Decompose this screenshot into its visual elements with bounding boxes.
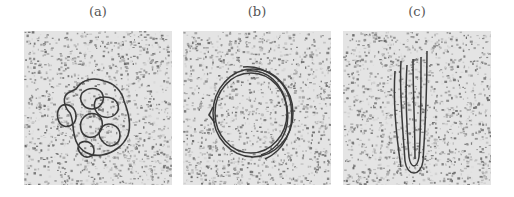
- panel-b-micrograph: [183, 31, 331, 185]
- panel-c-image: [343, 31, 491, 185]
- panel-b-image: [183, 31, 331, 185]
- panel-c-micrograph: [343, 31, 491, 185]
- panel-a-image: [24, 31, 172, 185]
- panel-b-label: (b): [183, 4, 331, 19]
- panel-a-micrograph: [24, 31, 172, 185]
- panel-c-label: (c): [343, 4, 491, 19]
- panel-a-label: (a): [24, 4, 172, 19]
